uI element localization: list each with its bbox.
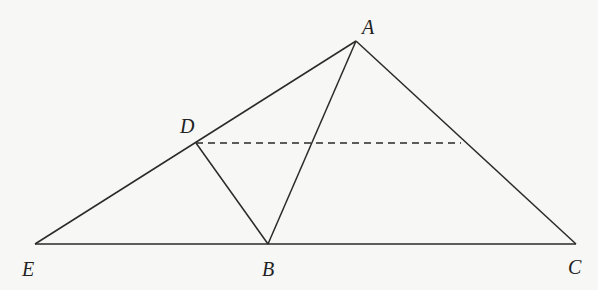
label-A: A — [360, 16, 375, 38]
geometry-diagram: A D E B C — [0, 0, 598, 290]
label-B: B — [262, 258, 274, 280]
label-E: E — [21, 258, 34, 280]
label-D: D — [179, 115, 195, 137]
point-labels: A D E B C — [21, 16, 582, 280]
label-C: C — [568, 256, 582, 278]
segment-DB — [196, 143, 268, 244]
segments — [35, 41, 576, 244]
